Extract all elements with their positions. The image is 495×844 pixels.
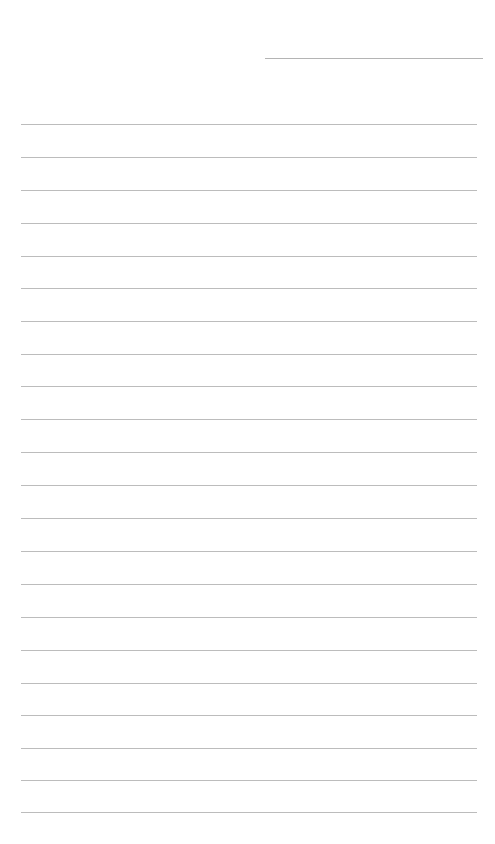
body-rule <box>21 288 477 289</box>
body-write-zone[interactable] <box>21 362 477 386</box>
body-rule <box>21 780 477 781</box>
body-rule <box>21 354 477 355</box>
body-rule <box>21 190 477 191</box>
body-rule <box>21 386 477 387</box>
body-rule <box>21 812 477 813</box>
body-write-zone[interactable] <box>21 527 477 551</box>
body-write-zone[interactable] <box>21 297 477 321</box>
body-write-zone[interactable] <box>21 199 477 223</box>
body-write-zone[interactable] <box>21 461 477 485</box>
body-write-zone[interactable] <box>21 560 477 584</box>
body-rule <box>21 256 477 257</box>
body-rule <box>21 485 477 486</box>
body-rule <box>21 748 477 749</box>
body-write-zone[interactable] <box>21 494 477 518</box>
notepaper-page <box>0 0 495 844</box>
body-write-zone[interactable] <box>21 691 477 715</box>
body-write-zone[interactable] <box>21 756 477 780</box>
body-write-zone[interactable] <box>21 264 477 288</box>
body-write-zone[interactable] <box>21 166 477 190</box>
body-write-zone[interactable] <box>21 428 477 452</box>
body-rule <box>21 157 477 158</box>
body-rule <box>21 650 477 651</box>
body-rule <box>21 584 477 585</box>
body-write-zone[interactable] <box>21 593 477 617</box>
body-rule <box>21 551 477 552</box>
body-write-zone[interactable] <box>21 724 477 748</box>
body-rule <box>21 452 477 453</box>
body-rule <box>21 715 477 716</box>
body-write-zone[interactable] <box>21 659 477 683</box>
body-rule <box>21 518 477 519</box>
body-write-zone[interactable] <box>21 232 477 256</box>
body-write-zone[interactable] <box>21 330 477 354</box>
body-rule <box>21 124 477 125</box>
body-rule <box>21 223 477 224</box>
body-write-zone[interactable] <box>21 395 477 419</box>
body-rule <box>21 321 477 322</box>
header-write-zone[interactable] <box>265 38 483 58</box>
body-write-zone[interactable] <box>21 788 477 812</box>
body-rule <box>21 683 477 684</box>
body-write-zone[interactable] <box>21 626 477 650</box>
body-write-zone[interactable] <box>21 133 477 157</box>
header-rule <box>265 58 483 59</box>
body-write-zone[interactable] <box>21 100 477 124</box>
body-rule <box>21 617 477 618</box>
body-rule <box>21 419 477 420</box>
